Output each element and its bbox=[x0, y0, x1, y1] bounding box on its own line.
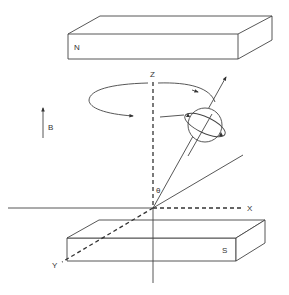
angle-label: θ bbox=[156, 186, 161, 195]
north-pole-label: N bbox=[74, 43, 80, 52]
south-magnet bbox=[67, 220, 265, 261]
field-label: B bbox=[48, 123, 53, 132]
spin-vector bbox=[153, 77, 226, 208]
spinning-nucleus-icon bbox=[182, 108, 229, 156]
north-magnet bbox=[68, 16, 272, 59]
x-axis-label: X bbox=[247, 204, 253, 213]
south-pole-label: S bbox=[222, 246, 227, 255]
z-axis-label: Z bbox=[150, 70, 155, 79]
y-axis-label: Y bbox=[52, 261, 58, 270]
projection-line bbox=[153, 155, 243, 208]
precession-diagram: N B Z θ X S Y bbox=[0, 0, 289, 295]
